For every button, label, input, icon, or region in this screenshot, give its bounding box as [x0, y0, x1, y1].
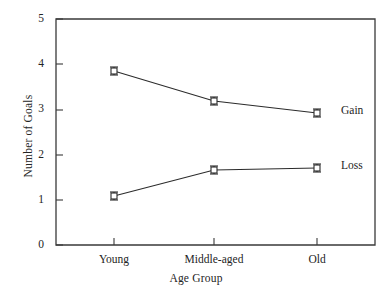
series-loss-marker-young	[111, 193, 117, 199]
line-chart-figure: Number of Goals Age Group 5 4 3 2 1 0 Yo…	[0, 0, 392, 296]
x-tick-marks	[114, 238, 317, 245]
series-gain-line	[114, 71, 317, 113]
plot-area	[0, 0, 392, 296]
series-gain-marker-young	[111, 68, 117, 74]
plot-frame	[56, 19, 375, 245]
series-loss-marker-middle-aged	[211, 167, 217, 173]
y-tick-marks	[56, 19, 63, 245]
series-gain-marker-old	[314, 110, 320, 116]
series-gain-marker-middle-aged	[211, 98, 217, 104]
series-gain	[110, 67, 321, 117]
series-loss	[110, 164, 321, 200]
series-loss-marker-old	[314, 165, 320, 171]
